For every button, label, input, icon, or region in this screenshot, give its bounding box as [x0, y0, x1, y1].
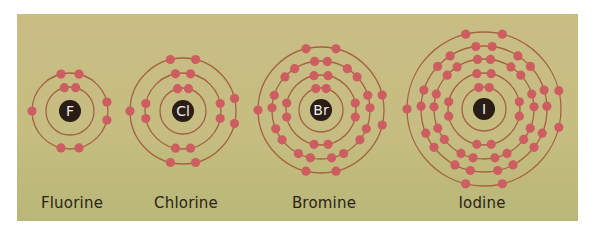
- electron-dot: [125, 106, 134, 115]
- electron-dot: [186, 69, 195, 78]
- atom-chlorine: Cl: [125, 55, 239, 167]
- electron-dot: [353, 72, 362, 81]
- electron-dot: [487, 69, 496, 78]
- electron-dot: [402, 104, 411, 113]
- element-symbol: F: [66, 103, 74, 119]
- electron-dot: [444, 112, 453, 121]
- electron-dot: [343, 64, 352, 73]
- electron-dot: [453, 62, 462, 71]
- electron-dot: [516, 71, 525, 80]
- electron-dot: [378, 90, 387, 99]
- electron-dot: [216, 99, 225, 108]
- electron-dot: [506, 62, 515, 71]
- electron-dot: [446, 51, 455, 60]
- electron-dot: [186, 144, 195, 153]
- element-symbol: I: [482, 101, 486, 117]
- electron-dot: [456, 149, 465, 158]
- electron-dot: [440, 135, 449, 144]
- electron-dot: [490, 153, 499, 162]
- electron-dot: [74, 70, 83, 79]
- label-bromine: Bromine: [292, 194, 356, 212]
- electron-dot: [363, 91, 372, 100]
- electron-dot: [502, 149, 511, 158]
- electron-dot: [355, 135, 364, 144]
- electron-dot: [421, 129, 430, 138]
- electron-dot: [538, 129, 547, 138]
- electron-dot: [519, 135, 528, 144]
- electron-dot: [191, 55, 200, 64]
- electron-dot: [171, 144, 180, 153]
- electron-dot: [280, 72, 289, 81]
- electron-dot: [471, 42, 480, 51]
- electron-dot: [469, 153, 478, 162]
- electron-dot: [419, 86, 428, 95]
- electron-dot: [301, 167, 310, 176]
- electron-dot: [488, 42, 497, 51]
- electron-dot: [271, 124, 280, 133]
- electron-dot: [56, 143, 65, 152]
- atom-iodine: I: [402, 30, 563, 189]
- electron-dot: [191, 158, 200, 167]
- electron-dot: [472, 140, 481, 149]
- electron-dot: [485, 83, 494, 92]
- electron-dot: [290, 64, 299, 73]
- electron-dot: [74, 143, 83, 152]
- electron-dot: [166, 55, 175, 64]
- electron-dot: [515, 97, 524, 106]
- electron-dot: [540, 86, 549, 95]
- electron-dot: [351, 112, 360, 121]
- electron-dot: [473, 55, 482, 64]
- electron-dot: [173, 84, 182, 93]
- electron-dot: [429, 143, 438, 152]
- electron-dot: [322, 84, 331, 93]
- electron-dot: [529, 102, 538, 111]
- electron-dot: [433, 124, 442, 133]
- electron-dot: [294, 149, 303, 158]
- electron-dot: [461, 179, 470, 188]
- electron-dot: [527, 89, 536, 98]
- electron-dot: [102, 115, 111, 124]
- electron-dot: [429, 102, 438, 111]
- electron-dot: [331, 44, 340, 53]
- electron-dot: [282, 112, 291, 121]
- electron-dot: [526, 62, 535, 71]
- electron-dot: [230, 119, 239, 128]
- electron-dot: [433, 62, 442, 71]
- electron-dot: [513, 51, 522, 60]
- electron-dot: [444, 97, 453, 106]
- electron-dot: [270, 91, 279, 100]
- electron-dot: [141, 99, 150, 108]
- electron-dot: [166, 158, 175, 167]
- electron-dot: [102, 97, 111, 106]
- electron-dot: [417, 102, 426, 111]
- electron-dot: [331, 167, 340, 176]
- electron-dot: [253, 105, 262, 114]
- electron-dot: [365, 103, 374, 112]
- electron-dot: [60, 83, 69, 92]
- electron-dot: [309, 140, 318, 149]
- label-iodine: Iodine: [458, 194, 505, 212]
- electron-dot: [267, 103, 276, 112]
- electron-dot: [311, 84, 320, 93]
- electron-dot: [323, 57, 332, 66]
- electron-dot: [362, 124, 371, 133]
- electron-dot: [472, 69, 481, 78]
- electron-dot: [526, 124, 535, 133]
- electron-dot: [378, 120, 387, 129]
- electron-dot: [309, 71, 318, 80]
- electron-dot: [450, 160, 459, 169]
- electron-dot: [323, 71, 332, 80]
- atom-bromine: Br: [253, 44, 386, 176]
- electron-dot: [498, 30, 507, 39]
- electron-dot: [461, 30, 470, 39]
- electron-dot: [351, 98, 360, 107]
- electron-dot: [529, 143, 538, 152]
- electron-dot: [493, 166, 502, 175]
- electron-dot: [56, 70, 65, 79]
- electron-dot: [515, 112, 524, 121]
- element-symbol: Br: [313, 102, 329, 118]
- label-fluorine: Fluorine: [41, 194, 103, 212]
- electron-dot: [508, 160, 517, 169]
- electron-dot: [230, 94, 239, 103]
- electron-dot: [323, 140, 332, 149]
